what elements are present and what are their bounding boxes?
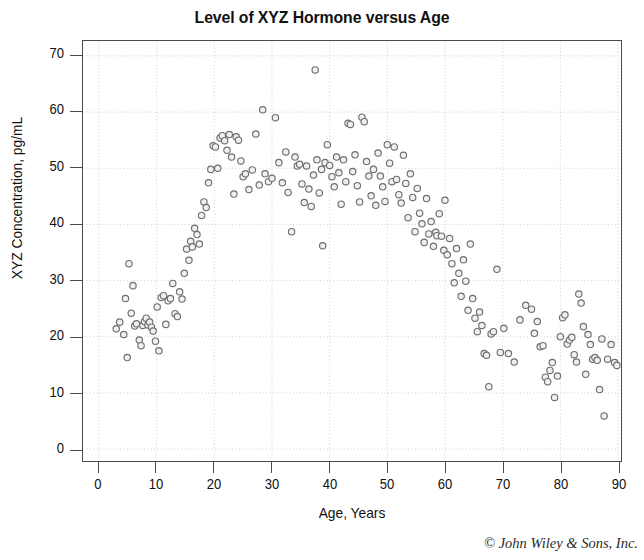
page-title: Level of XYZ Hormone versus Age (23, 8, 622, 28)
data-point (301, 199, 307, 205)
x-tick-label: 10 (133, 476, 178, 492)
data-point (124, 354, 130, 360)
data-point (410, 194, 416, 200)
data-point (363, 158, 369, 164)
data-point (458, 293, 464, 299)
data-point (326, 162, 332, 168)
chart-figure: Level of XYZ Hormone versus Age 01020304… (0, 0, 644, 560)
x-tick-mark (619, 462, 620, 473)
data-point (442, 197, 448, 203)
data-point (343, 179, 349, 185)
data-point (306, 186, 312, 192)
data-point (377, 173, 383, 179)
x-axis-label: Age, Years (96, 505, 609, 521)
data-point (138, 343, 144, 349)
data-point (296, 161, 302, 167)
data-point (576, 291, 582, 297)
data-point (224, 147, 230, 153)
copyright-credit: © John Wiley & Sons, Inc. (484, 535, 638, 552)
y-tick-mark (70, 337, 82, 338)
data-point (436, 211, 442, 217)
data-point (350, 168, 356, 174)
data-point (212, 144, 218, 150)
x-tick-mark (387, 462, 388, 473)
data-point (292, 154, 298, 160)
data-point (170, 280, 176, 286)
data-point (215, 165, 221, 171)
data-point (599, 336, 605, 342)
data-point (189, 244, 195, 250)
data-point (469, 295, 475, 301)
data-point (578, 300, 584, 306)
data-point (347, 121, 353, 127)
data-point (571, 352, 577, 358)
x-tick-mark (155, 462, 156, 473)
data-point (463, 278, 469, 284)
y-tick-mark (70, 393, 82, 394)
data-point (163, 321, 169, 327)
y-tick-label: 20 (30, 327, 64, 343)
data-point (386, 160, 392, 166)
x-tick-label: 70 (481, 476, 526, 492)
data-point (587, 341, 593, 347)
y-tick-mark (70, 55, 82, 56)
data-point (354, 182, 360, 188)
data-point (276, 159, 282, 165)
data-point (285, 189, 291, 195)
y-tick-mark (70, 167, 82, 168)
data-point (299, 181, 305, 187)
data-point (472, 315, 478, 321)
data-point (181, 270, 187, 276)
data-point (340, 157, 346, 163)
data-point (126, 261, 132, 267)
data-point (336, 170, 342, 176)
data-point (249, 167, 255, 173)
data-point (242, 171, 248, 177)
data-point (196, 241, 202, 247)
data-point (176, 289, 182, 295)
y-tick-label: 40 (30, 214, 64, 230)
plot-area (82, 40, 622, 462)
data-point (352, 152, 358, 158)
data-point (198, 212, 204, 218)
data-point (186, 257, 192, 263)
data-point (479, 322, 485, 328)
data-point (361, 118, 367, 124)
data-point (191, 225, 197, 231)
data-point (400, 152, 406, 158)
data-point (453, 245, 459, 251)
x-tick-label: 90 (597, 476, 642, 492)
data-point (246, 186, 252, 192)
data-point (203, 204, 209, 210)
data-point (208, 166, 214, 172)
data-point (122, 295, 128, 301)
data-point (130, 282, 136, 288)
data-point (412, 229, 418, 235)
data-point (308, 203, 314, 209)
data-point (356, 199, 362, 205)
y-tick-mark (70, 111, 82, 112)
data-point (256, 182, 262, 188)
y-tick-mark (70, 224, 82, 225)
data-point (396, 191, 402, 197)
data-point (421, 239, 427, 245)
x-tick-mark (98, 462, 99, 473)
data-point (318, 166, 324, 172)
data-point (608, 341, 614, 347)
x-tick-label: 50 (365, 476, 410, 492)
data-point (228, 154, 234, 160)
data-point (614, 362, 620, 368)
data-point (534, 318, 540, 324)
data-point (517, 317, 523, 323)
data-point (167, 295, 173, 301)
data-point (557, 334, 563, 340)
data-point (438, 233, 444, 239)
data-point (370, 166, 376, 172)
data-point (150, 328, 156, 334)
data-point (320, 243, 326, 249)
data-point (113, 326, 119, 332)
data-point (596, 386, 602, 392)
data-point (121, 331, 127, 337)
data-point (152, 338, 158, 344)
data-point (483, 352, 489, 358)
